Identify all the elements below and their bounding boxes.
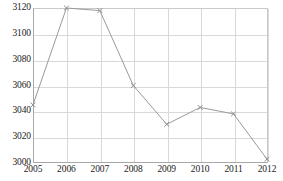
data-point-marker — [131, 83, 136, 88]
series-layer — [33, 8, 268, 163]
x-tick-label: 2005 — [24, 165, 43, 175]
gridline-vertical — [268, 9, 269, 162]
x-tick-label: 2010 — [191, 165, 210, 175]
y-tick-label: 3060 — [0, 81, 31, 91]
y-tick-label: 3080 — [0, 55, 31, 65]
series-line — [33, 8, 267, 159]
data-point-marker — [164, 122, 169, 127]
x-tick-label: 2007 — [91, 165, 110, 175]
y-tick-label: 3120 — [0, 3, 31, 13]
y-tick-label: 3040 — [0, 107, 31, 117]
line-chart: 3000302030403060308031003120 20052006200… — [0, 0, 283, 181]
y-tick-label: 3100 — [0, 29, 31, 39]
x-tick-label: 2009 — [157, 165, 176, 175]
y-axis: 3000302030403060308031003120 — [0, 8, 31, 163]
x-tick-label: 2008 — [124, 165, 143, 175]
x-axis: 20052006200720082009201020112012 — [33, 165, 268, 179]
x-tick-label: 2011 — [224, 165, 242, 175]
x-tick-label: 2006 — [57, 165, 76, 175]
data-point-marker — [31, 102, 36, 107]
y-tick-label: 3020 — [0, 132, 31, 142]
x-tick-label: 2012 — [258, 165, 277, 175]
